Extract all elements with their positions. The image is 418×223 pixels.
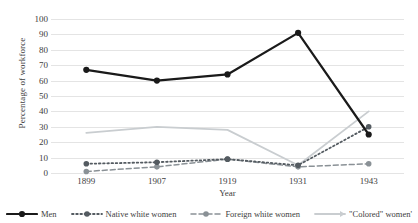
legend-swatch-icon — [314, 209, 346, 219]
legend-swatch-icon — [71, 209, 103, 219]
legend-item[interactable]: Foreign white women — [190, 209, 300, 219]
y-axis-tick-label: 20 — [39, 138, 48, 147]
legend-item-label: Foreign white women — [225, 209, 300, 219]
y-axis-tick-label: 50 — [39, 92, 48, 101]
x-axis-tick-label: 1899 — [77, 176, 95, 187]
legend-item-label: Men — [41, 209, 57, 219]
y-axis-tick-label: 0 — [44, 169, 49, 178]
y-axis-tick-label: 90 — [39, 30, 48, 39]
x-axis-title: Year — [51, 188, 404, 198]
y-axis-tick-label: 100 — [35, 15, 49, 24]
y-axis-tick-label: 10 — [39, 153, 48, 162]
x-axis-tick-label: 1907 — [148, 176, 166, 187]
series-marker — [366, 161, 372, 167]
y-axis-tick-label: 40 — [39, 107, 48, 116]
y-axis-tick-label: 70 — [39, 61, 48, 70]
series-marker — [224, 71, 230, 77]
line-chart: Percentage of workforce 1009080706050403… — [0, 0, 418, 223]
series-marker — [154, 78, 160, 84]
legend-item[interactable]: Native white women — [71, 209, 177, 219]
legend-swatch-icon — [6, 209, 38, 219]
series-marker — [225, 156, 231, 162]
x-axis-tick-label: 1931 — [289, 176, 307, 187]
series-marker — [366, 124, 372, 130]
legend-item-label: "Colored" women' — [349, 209, 412, 219]
series-line — [86, 33, 368, 135]
gridline — [51, 173, 404, 174]
plot-svg — [51, 19, 404, 173]
series-marker — [295, 163, 301, 169]
legend-swatch-icon — [190, 209, 222, 219]
series-marker — [295, 30, 301, 36]
y-axis-tick-label: 80 — [39, 45, 48, 54]
series-marker — [84, 161, 90, 167]
y-axis-tick-label: 30 — [39, 122, 48, 131]
series-marker — [366, 131, 372, 137]
series-marker — [154, 159, 160, 165]
x-axis-tick-label: 1919 — [219, 176, 237, 187]
series-marker — [83, 67, 89, 73]
x-axis-tick-label: 1943 — [360, 176, 378, 187]
chart-legend: MenNative white womenForeign white women… — [0, 206, 418, 222]
legend-item[interactable]: "Colored" women' — [314, 209, 412, 219]
legend-item-label: Native white women — [106, 209, 177, 219]
y-axis-tick-labels: 1009080706050403020100 — [24, 14, 48, 174]
series-marker — [84, 169, 90, 175]
legend-item[interactable]: Men — [6, 209, 57, 219]
plot-area — [51, 19, 404, 173]
y-axis-tick-label: 60 — [39, 76, 48, 85]
